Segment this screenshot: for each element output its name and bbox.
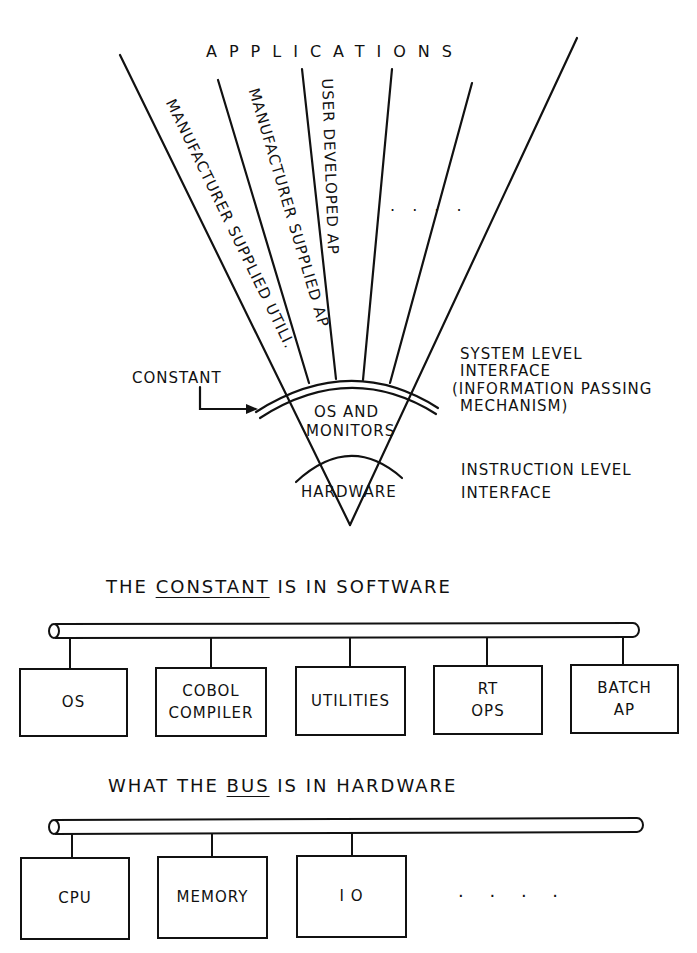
instruction-level-line2: INTERFACE [461, 482, 632, 505]
core-label-line1: OS AND [314, 404, 379, 421]
hardware-caption: WHAT THE BUS IS IN HARDWARE [108, 776, 457, 797]
software-bus [55, 623, 639, 638]
software-caption: THE CONSTANT IS IN SOFTWARE [106, 577, 452, 598]
box-label-line2: COMPILER [169, 702, 254, 725]
constant-label: CONSTANT [132, 370, 222, 387]
box-label: MEMORY [177, 886, 249, 909]
box-label-line2: OPS [471, 700, 504, 723]
hardware-bus-end [49, 820, 59, 834]
constant-arrow-line [200, 387, 248, 409]
instruction-interface-arc [296, 456, 402, 482]
box-label: CPU [58, 887, 92, 910]
hardware-caption-pre: WHAT THE [108, 775, 219, 796]
system-level-line4: MECHANISM) [460, 398, 652, 415]
hardware-caption-underlined: BUS [227, 775, 270, 796]
hardware-box-cpu: CPU [20, 857, 130, 940]
hardware-bus [55, 818, 643, 834]
hardware-box-io: I O [296, 855, 407, 938]
segment-ellipsis: . . . . [390, 196, 468, 215]
box-label-line1: RT [471, 678, 504, 701]
hardware-box-memory: MEMORY [157, 856, 268, 939]
software-caption-underlined: CONSTANT [156, 576, 270, 597]
fan-divider-3 [363, 69, 392, 380]
software-bus-end [49, 624, 59, 638]
box-label-line1: COBOL [169, 680, 254, 703]
system-level-line2: INTERFACE [460, 363, 652, 380]
system-level-interface-label: SYSTEM LEVEL INTERFACE (INFORMATION PASS… [460, 346, 652, 415]
applications-label: APPLICATIONS [206, 43, 464, 61]
software-box-batch-ap: BATCHAP [570, 664, 679, 734]
box-label: UTILITIES [311, 690, 390, 713]
core-label-line2: MONITORS [306, 423, 395, 440]
software-box-rt-ops: RTOPS [433, 665, 543, 735]
box-label-line2: AP [597, 699, 651, 722]
system-level-line3: (INFORMATION PASSING [452, 381, 652, 398]
software-box-os: OS [19, 668, 128, 737]
software-box-cobol-compiler: COBOLCOMPILER [155, 667, 267, 737]
system-level-line1: SYSTEM LEVEL [460, 346, 652, 363]
fan-divider-4 [390, 83, 472, 383]
box-label-line1: BATCH [597, 677, 651, 700]
hardware-ellipsis: . . . . [458, 880, 568, 901]
software-box-utilities: UTILITIES [295, 666, 406, 736]
box-label: I O [340, 885, 364, 908]
instruction-level-interface-label: INSTRUCTION LEVEL INTERFACE [461, 459, 632, 506]
box-label: OS [62, 691, 85, 714]
hardware-label: HARDWARE [301, 484, 397, 501]
instruction-level-line1: INSTRUCTION LEVEL [461, 459, 632, 482]
software-caption-post: IS IN SOFTWARE [277, 576, 452, 597]
software-caption-pre: THE [106, 576, 148, 597]
hardware-caption-post: IS IN HARDWARE [277, 775, 457, 796]
